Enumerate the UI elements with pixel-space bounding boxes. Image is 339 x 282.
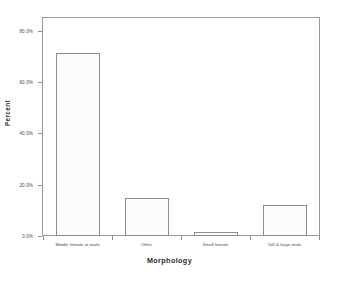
y-tick-label: 40.0% — [19, 131, 33, 136]
x-axis-title: Morphology — [0, 256, 339, 265]
bars-layer — [43, 18, 319, 236]
y-tick-mark — [38, 133, 42, 134]
bar — [56, 53, 100, 236]
y-tick-label: 20.0% — [19, 182, 33, 187]
x-tick-mark — [250, 236, 251, 240]
bar-chart: 0.0%20.0%40.0%60.0%80.0% Percent Middle … — [0, 0, 339, 282]
x-tick-mark — [181, 236, 182, 240]
y-tick-mark — [38, 82, 42, 83]
y-tick-label: 80.0% — [19, 28, 33, 33]
bar — [125, 198, 169, 236]
x-axis: Middle female or maleOtherSmall femaleTa… — [0, 236, 339, 256]
x-tick-label: Tall & large male — [268, 242, 301, 247]
y-tick-label: 60.0% — [19, 80, 33, 85]
x-tick-label: Other — [141, 242, 152, 247]
y-tick-mark — [38, 31, 42, 32]
y-axis-title: Percent — [4, 100, 11, 126]
x-tick-mark — [43, 236, 44, 240]
x-tick-mark — [319, 236, 320, 240]
x-tick-mark — [112, 236, 113, 240]
bar — [263, 205, 307, 236]
x-tick-label: Middle female or male — [55, 242, 99, 247]
y-tick-mark — [38, 185, 42, 186]
x-tick-label: Small female — [203, 242, 229, 247]
